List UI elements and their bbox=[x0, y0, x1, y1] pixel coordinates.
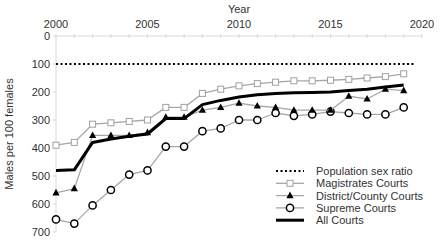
circle-marker bbox=[71, 220, 78, 227]
triangle-marker bbox=[286, 192, 293, 199]
triangle-marker bbox=[345, 92, 352, 99]
square-marker bbox=[346, 76, 352, 82]
circle-marker bbox=[290, 112, 297, 119]
legend-label: All Courts bbox=[316, 214, 364, 226]
y-tick-label: 500 bbox=[32, 170, 50, 182]
square-marker bbox=[145, 117, 151, 123]
square-marker bbox=[382, 74, 388, 80]
circle-marker bbox=[107, 186, 114, 193]
square-marker bbox=[218, 86, 224, 92]
y-tick-label: 300 bbox=[32, 114, 50, 126]
circle-marker bbox=[89, 202, 96, 209]
circle-marker bbox=[254, 116, 261, 123]
square-marker bbox=[254, 81, 260, 87]
square-marker bbox=[328, 77, 334, 83]
x-tick-label: 2015 bbox=[318, 18, 342, 30]
circle-marker bbox=[272, 109, 279, 116]
square-marker bbox=[287, 180, 293, 186]
legend-label: District/County Courts bbox=[316, 190, 423, 202]
square-marker bbox=[273, 79, 279, 85]
circle-marker bbox=[400, 104, 407, 111]
legend: Population sex ratioMagistrates CourtsDi… bbox=[276, 165, 423, 226]
y-axis-label: Males per 100 females bbox=[3, 78, 15, 190]
legend-item: Supreme Courts bbox=[276, 202, 397, 214]
square-marker bbox=[53, 142, 59, 148]
circle-marker bbox=[199, 128, 206, 135]
circle-marker bbox=[235, 116, 242, 123]
square-marker bbox=[401, 71, 407, 77]
square-marker bbox=[364, 75, 370, 81]
y-tick-label: 0 bbox=[44, 30, 50, 42]
chart-canvas: Year Males per 100 females 2000200520102… bbox=[0, 0, 446, 247]
legend-item: All Courts bbox=[276, 214, 364, 226]
circle-marker bbox=[217, 125, 224, 132]
triangle-marker bbox=[71, 185, 78, 192]
circle-marker bbox=[345, 109, 352, 116]
circle-marker bbox=[126, 171, 133, 178]
triangle-marker bbox=[235, 99, 242, 106]
legend-label: Population sex ratio bbox=[316, 165, 413, 177]
circle-marker bbox=[286, 204, 293, 211]
legend-label: Supreme Courts bbox=[316, 202, 397, 214]
y-tick-label: 100 bbox=[32, 58, 50, 70]
line-chart: Year Males per 100 females 2000200520102… bbox=[0, 0, 446, 247]
square-marker bbox=[309, 78, 315, 84]
x-tick-label: 2020 bbox=[410, 18, 434, 30]
square-marker bbox=[163, 104, 169, 110]
circle-marker bbox=[382, 111, 389, 118]
circle-marker bbox=[181, 143, 188, 150]
x-axis-label: Year bbox=[228, 3, 251, 15]
circle-marker bbox=[52, 216, 59, 223]
circle-marker bbox=[144, 167, 151, 174]
square-marker bbox=[291, 78, 297, 84]
series-line bbox=[56, 74, 404, 145]
y-tick-label: 600 bbox=[32, 198, 50, 210]
square-marker bbox=[236, 83, 242, 89]
square-marker bbox=[126, 118, 132, 124]
legend-item: District/County Courts bbox=[276, 190, 423, 202]
square-marker bbox=[108, 120, 114, 126]
square-marker bbox=[90, 121, 96, 127]
series-magistrates-courts bbox=[53, 71, 407, 148]
triangle-marker bbox=[89, 131, 96, 138]
triangle-marker bbox=[309, 106, 316, 113]
y-tick-label: 200 bbox=[32, 86, 50, 98]
legend-item: Population sex ratio bbox=[276, 165, 413, 177]
x-tick-label: 2005 bbox=[135, 18, 159, 30]
legend-item: Magistrates Courts bbox=[276, 177, 409, 189]
triangle-marker bbox=[107, 131, 114, 138]
circle-marker bbox=[162, 143, 169, 150]
y-tick-label: 700 bbox=[32, 226, 50, 238]
square-marker bbox=[71, 139, 77, 145]
square-marker bbox=[199, 90, 205, 96]
y-tick-label: 400 bbox=[32, 142, 50, 154]
square-marker bbox=[181, 104, 187, 110]
x-tick-label: 2000 bbox=[44, 18, 68, 30]
circle-marker bbox=[364, 111, 371, 118]
x-tick-label: 2010 bbox=[227, 18, 251, 30]
legend-label: Magistrates Courts bbox=[316, 177, 409, 189]
